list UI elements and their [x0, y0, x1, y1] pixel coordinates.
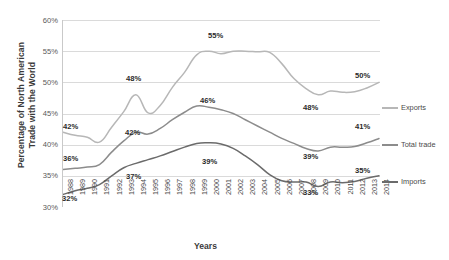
data-point-label: 46% [200, 96, 215, 105]
legend-label: Imports [401, 177, 426, 186]
x-axis-tick-label: 1995 [151, 179, 160, 209]
data-point-label: 41% [355, 122, 370, 131]
x-axis-tick-label: 2003 [248, 179, 257, 209]
x-axis-tick-label: 1992 [115, 179, 124, 209]
x-axis-tick-label: 2006 [285, 179, 294, 209]
series-line-exports [63, 51, 379, 143]
x-axis-tick-label: 2010 [333, 179, 342, 209]
y-axis-tick-label: 30% [20, 203, 58, 212]
data-point-label: 42% [63, 122, 78, 131]
data-point-label: 39% [202, 157, 217, 166]
data-point-label: 42% [125, 128, 140, 137]
x-axis-tick-labels: 1988198919901991199219931994199519961997… [62, 208, 380, 242]
x-axis-tick-label: 2002 [236, 179, 245, 209]
series-lines [63, 51, 379, 195]
legend-label: Total trade [401, 140, 436, 149]
x-axis-tick-label: 2013 [370, 179, 379, 209]
y-axis-tick-label: 45% [20, 109, 58, 118]
series-line-total-trade [63, 106, 379, 170]
x-axis-tick-label: 1996 [163, 179, 172, 209]
x-axis-tick-label: 1990 [90, 179, 99, 209]
y-axis-tick-label: 55% [20, 47, 58, 56]
x-axis-tick-label: 1998 [188, 179, 197, 209]
x-axis-tick-label: 1994 [139, 179, 148, 209]
x-axis-tick-label: 2007 [297, 179, 306, 209]
x-axis-tick-label: 2008 [309, 179, 318, 209]
legend-swatch-icon [382, 181, 398, 183]
y-axis-tick-label: 35% [20, 171, 58, 180]
y-axis-tick-labels: 30%35%40%45%50%55%60% [20, 0, 58, 260]
legend-item-total-trade[interactable]: Total trade [382, 140, 436, 149]
x-axis-tick-label: 2011 [346, 179, 355, 209]
data-point-label: 36% [63, 154, 78, 163]
legend-label: Exports [401, 103, 426, 112]
x-axis-tick-label: 2004 [260, 179, 269, 209]
data-point-label: 48% [126, 74, 141, 83]
x-axis-tick-label: 1997 [175, 179, 184, 209]
chart-legend: ExportsTotal tradeImports [382, 0, 449, 260]
data-point-label: 48% [303, 103, 318, 112]
legend-swatch-icon [382, 107, 398, 109]
legend-item-imports[interactable]: Imports [382, 177, 426, 186]
x-axis-tick-label: 1989 [78, 179, 87, 209]
legend-swatch-icon [382, 144, 398, 146]
y-axis-tick-label: 40% [20, 140, 58, 149]
x-axis-tick-label: 2012 [358, 179, 367, 209]
y-axis-tick-label: 50% [20, 78, 58, 87]
data-point-label: 50% [355, 71, 370, 80]
x-axis-tick-label: 1999 [200, 179, 209, 209]
x-axis-tick-label: 2000 [212, 179, 221, 209]
data-point-label: 39% [303, 152, 318, 161]
data-point-label: 35% [355, 166, 370, 175]
line-chart: Percentage of North American Trade with … [0, 0, 449, 260]
x-axis-tick-label: 2001 [224, 179, 233, 209]
x-axis-tick-label: 2005 [273, 179, 282, 209]
x-axis-tick-label: 1988 [66, 179, 75, 209]
y-axis-tick-label: 60% [20, 16, 58, 25]
x-axis-title-text: Years [194, 241, 217, 251]
data-point-label: 55% [208, 31, 223, 40]
legend-item-exports[interactable]: Exports [382, 103, 426, 112]
x-axis-tick-label: 1993 [127, 179, 136, 209]
x-axis-tick-label: 2009 [321, 179, 330, 209]
x-axis-tick-label: 1991 [102, 179, 111, 209]
